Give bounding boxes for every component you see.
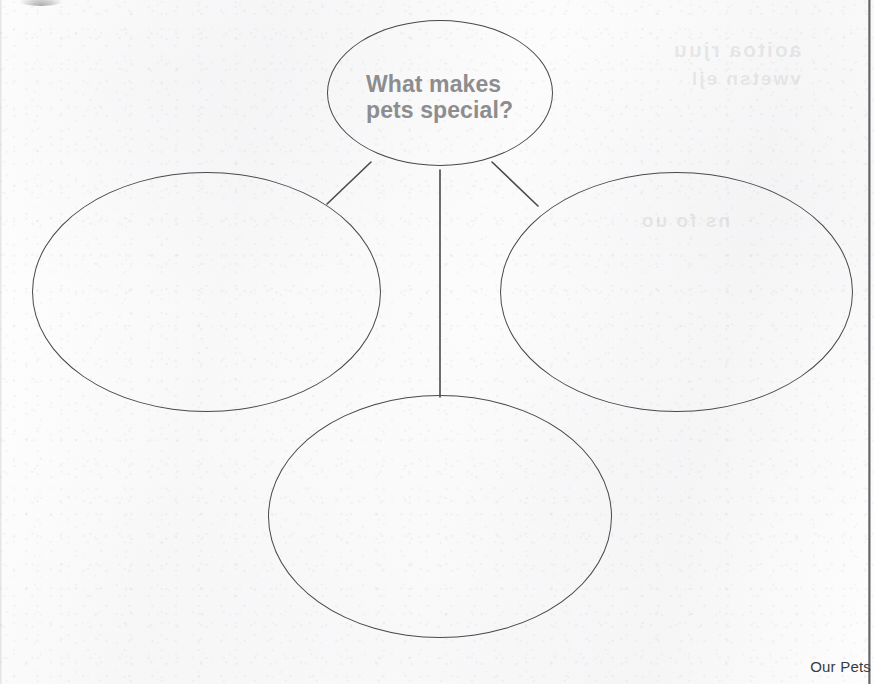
center-bubble-prompt: What makes pets special? [366,71,546,123]
scan-edge-left-artifact [0,0,2,684]
prompt-line-2: pets special? [366,97,546,123]
worksheet-page: aoitoa rjuu vwetsn ejl ns fo uo What mak… [0,0,874,684]
scan-edge-right-artifact [868,0,871,684]
prompt-line-1: What makes [366,71,546,97]
page-footer-label: Our Pets [810,658,871,675]
answer-bubble-left[interactable] [32,172,381,412]
answer-bubble-right[interactable] [500,172,853,412]
answer-bubble-bottom[interactable] [268,395,612,638]
